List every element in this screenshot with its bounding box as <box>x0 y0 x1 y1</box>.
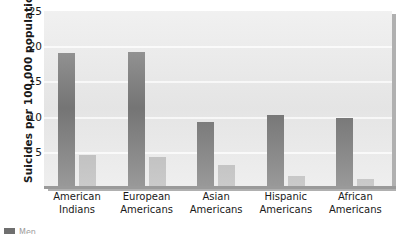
x-axis-category-labels: AmericanIndiansEuropeanAmericansAsianAme… <box>44 191 396 225</box>
plot-area <box>44 11 392 187</box>
bar-asian-americans-women <box>218 165 235 187</box>
bar-american-indians-men <box>58 53 75 187</box>
legend-label: Men <box>19 228 36 235</box>
y-tick-label-25: 25 <box>16 6 42 16</box>
bar-african-americans-men <box>336 118 353 187</box>
y-tick-label-5: 5 <box>16 147 42 157</box>
gridline-20 <box>44 46 392 48</box>
bar-european-americans-men <box>128 52 145 187</box>
suicide-rate-bar-chart: Suicides per 100,000 population 25201510… <box>0 0 403 234</box>
bar-american-indians-women <box>79 155 96 187</box>
y-tick-label-20: 20 <box>16 41 42 51</box>
y-tick-label-10: 10 <box>16 112 42 122</box>
legend: Men <box>4 226 36 234</box>
y-tick-label-15: 15 <box>16 76 42 86</box>
x-label-african-americans: AfricanAmericans <box>310 191 400 216</box>
x-axis-line <box>44 186 396 189</box>
y-axis-tick-labels: 252015105 <box>14 0 42 195</box>
bar-hispanic-americans-men <box>267 115 284 187</box>
bar-european-americans-women <box>149 157 166 187</box>
gridline-15 <box>44 81 392 83</box>
bar-asian-americans-men <box>197 122 214 187</box>
legend-swatch-icon <box>4 228 15 234</box>
